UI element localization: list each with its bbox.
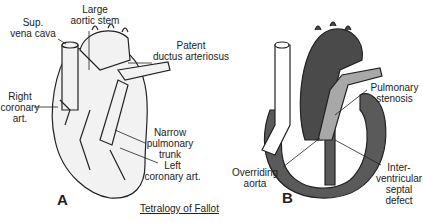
panel-letter-b: B bbox=[282, 189, 293, 206]
label-sup-vena-cava: Sup. vena cava bbox=[8, 17, 58, 39]
label-left-coronary: Left coronary art. bbox=[140, 160, 205, 182]
tetralogy-diagram bbox=[0, 0, 423, 222]
label-pulmonary-stenosis: Pulmonary stenosis bbox=[367, 82, 422, 104]
label-overriding-aorta: Overriding aorta bbox=[225, 167, 285, 189]
label-large-aortic-stem: Large aortic stem bbox=[70, 4, 120, 26]
label-vsd: Inter- ventricular septal defect bbox=[375, 162, 423, 206]
figure-caption: Tetralogy of Fallot bbox=[140, 203, 219, 214]
panel-letter-a: A bbox=[57, 191, 68, 208]
label-narrow-pulmonary: Narrow pulmonary trunk bbox=[145, 127, 195, 160]
label-patent-ductus: Patent ductus arteriosus bbox=[146, 40, 236, 62]
label-right-coronary: Right coronary art. bbox=[0, 91, 40, 124]
